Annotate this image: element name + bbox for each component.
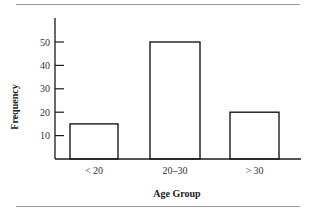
y-tick-label: 50 [40, 37, 50, 48]
x-axis-label: Age Group [153, 188, 200, 199]
y-tick-label: 20 [40, 107, 50, 118]
y-tick-label: 30 [40, 83, 50, 94]
y-tick-label: 40 [40, 60, 50, 71]
bar [70, 124, 118, 159]
x-tick-label: < 20 [85, 165, 103, 176]
bar [150, 42, 200, 159]
y-axis-label: Frequency [9, 84, 20, 129]
x-tick-label: 20–30 [163, 165, 188, 176]
bar [230, 112, 279, 159]
bar-chart: 1020304050< 2020–30> 30 [0, 0, 320, 215]
x-tick-label: > 30 [245, 165, 263, 176]
y-tick-label: 10 [40, 130, 50, 141]
